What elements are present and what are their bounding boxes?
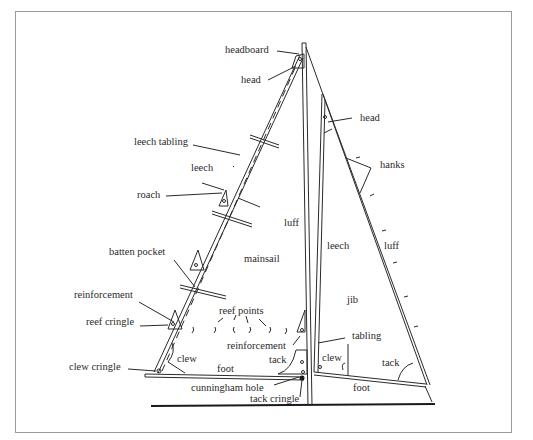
label-batten-pocket: batten pocket xyxy=(109,246,165,257)
label-hanks: hanks xyxy=(380,159,405,170)
label-head-jib: head xyxy=(360,112,381,123)
label-leech-tabling: leech tabling xyxy=(134,136,189,147)
battens xyxy=(180,135,279,299)
label-foot-main: foot xyxy=(217,363,234,374)
label-leech-jib: leech xyxy=(327,240,350,251)
label-leech: leech xyxy=(191,162,214,173)
label-mainsail: mainsail xyxy=(244,253,280,264)
label-foot-jib: foot xyxy=(353,382,370,393)
label-head: head xyxy=(241,74,262,85)
label-roach: roach xyxy=(137,189,161,200)
label-reinforcement-right: reinforcement xyxy=(227,340,286,351)
reef-points xyxy=(192,327,287,334)
label-reinforcement-left: reinforcement xyxy=(74,289,133,300)
deck-line xyxy=(151,404,435,406)
label-reef-cringle: reef cringle xyxy=(86,316,134,327)
label-cunningham-hole: cunningham hole xyxy=(191,382,264,393)
label-reef-points: reef points xyxy=(219,305,264,316)
mainsail-outline xyxy=(145,54,304,380)
label-clew-cringle: clew cringle xyxy=(69,361,121,372)
label-clew-main: clew xyxy=(177,353,197,364)
label-tack-jib: tack xyxy=(382,357,400,368)
label-clew-jib: clew xyxy=(322,352,342,363)
label-tack-cringle: tack cringle xyxy=(250,393,300,404)
label-tabling: tabling xyxy=(352,330,382,341)
label-luff-main: luff xyxy=(284,217,299,228)
label-luff-jib: luff xyxy=(384,240,399,251)
label-jib: jib xyxy=(346,294,358,305)
sail-diagram: headboard head leech tabling leech roach… xyxy=(0,0,533,440)
jib-outline xyxy=(306,47,432,402)
label-headboard: headboard xyxy=(225,44,269,55)
label-tack-main: tack xyxy=(269,354,287,365)
